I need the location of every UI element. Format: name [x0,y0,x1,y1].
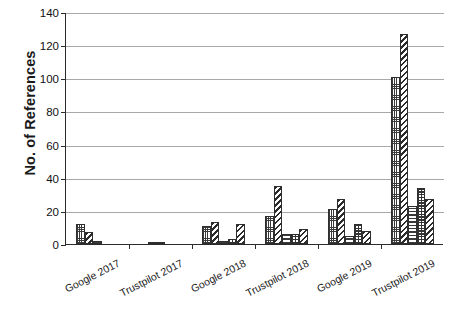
x-tick-mark [255,244,256,249]
plot-area: 020406080100120140 [65,13,443,245]
x-tick-mark [129,244,130,249]
bar-group [318,13,381,244]
bar [282,234,291,244]
y-axis-title: No. of References [22,23,38,203]
bar [328,209,337,244]
bar [299,229,308,244]
y-tick-label: 0 [53,239,59,251]
bar [93,241,102,244]
bar [85,232,94,244]
bar [400,34,409,244]
y-tick-label: 60 [46,140,59,152]
x-tick-mark [192,244,193,249]
bar [391,77,400,244]
bar-group [381,13,444,244]
bar-group [192,13,255,244]
bar [76,224,85,244]
bar-group [129,13,192,244]
bar-group [66,13,129,244]
bar [228,239,237,244]
y-tick-label: 100 [40,73,59,85]
bar [236,224,245,244]
x-tick-mark [381,244,382,249]
y-tick-label: 140 [40,7,59,19]
bar [156,242,165,244]
y-tick-label: 120 [40,40,59,52]
y-tick-label: 20 [46,206,59,218]
bar [274,186,283,244]
y-tick-label: 40 [46,173,59,185]
bar [337,199,346,244]
x-tick-mark [318,244,319,249]
bar [425,199,434,244]
y-tick-mark [61,245,66,246]
bar [362,231,371,244]
bar [291,234,300,244]
bar [345,236,354,244]
bar [211,222,220,244]
bar [148,242,157,244]
bar [354,224,363,244]
bar-chart: No. of References 020406080100120140 Goo… [0,0,470,314]
bar [265,216,274,244]
y-tick-label: 80 [46,106,59,118]
bar [219,241,228,244]
bar [408,206,417,244]
bar [417,188,426,244]
bar [202,226,211,244]
bar-group [255,13,318,244]
